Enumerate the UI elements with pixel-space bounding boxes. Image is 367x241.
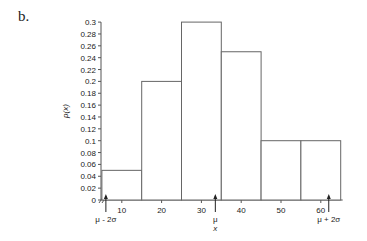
histogram-bar: [102, 170, 142, 200]
y-tick-label: 0: [92, 196, 97, 205]
histogram-bar: [142, 81, 182, 200]
histogram-chart: 00.020.040.060.080.10.120.140.160.180.20…: [0, 0, 367, 241]
histogram-bar: [182, 22, 222, 200]
y-tick-label: 0.08: [80, 149, 96, 158]
y-tick-label: 0.04: [80, 172, 96, 181]
x-tick-label: 40: [237, 206, 246, 215]
histogram-bar: [261, 141, 301, 200]
y-tick-label: 0.2: [85, 77, 97, 86]
y-tick-label: 0.06: [80, 160, 96, 169]
x-tick-label: 30: [197, 206, 206, 215]
annotation-label: μ + 2σ: [317, 215, 340, 224]
annotation-label: μ: [213, 215, 218, 224]
y-tick-label: 0.24: [80, 54, 96, 63]
y-tick-label: 0.1: [85, 137, 97, 146]
x-tick-label: 20: [157, 206, 166, 215]
x-axis-title: x: [212, 224, 218, 233]
y-axis-title: p(x): [61, 104, 70, 119]
y-tick-label: 0.16: [80, 101, 96, 110]
y-tick-label: 0.28: [80, 30, 96, 39]
y-tick-label: 0.02: [80, 184, 96, 193]
x-tick-label: 50: [277, 206, 286, 215]
x-tick-label: 60: [316, 206, 325, 215]
y-tick-label: 0.12: [80, 125, 96, 134]
histogram-bar: [301, 141, 341, 200]
y-tick-label: 0.18: [80, 89, 96, 98]
annotation-label: μ - 2σ: [95, 215, 116, 224]
x-tick-label: 10: [117, 206, 126, 215]
y-tick-label: 0.22: [80, 66, 96, 75]
y-tick-label: 0.3: [85, 18, 97, 27]
y-tick-label: 0.26: [80, 42, 96, 51]
y-tick-label: 0.14: [80, 113, 96, 122]
histogram-bar: [221, 52, 261, 200]
